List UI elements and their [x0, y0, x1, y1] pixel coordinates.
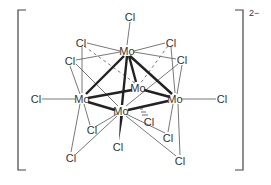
cl-bottom: Cl — [113, 141, 123, 153]
left-bracket — [18, 10, 26, 170]
mo-left: Mo — [74, 93, 89, 105]
cl-hashed: Cl — [144, 116, 154, 128]
cl-top: Cl — [125, 11, 135, 23]
hashed-bond — [140, 109, 148, 115]
cl-upper-right: Cl — [166, 37, 176, 49]
atom-labels: Mo Mo Mo Mo Mo Cl Cl Cl Cl Cl Cl Cl Cl C… — [31, 11, 227, 167]
cluster-diagram: Mo Mo Mo Mo Mo Cl Cl Cl Cl Cl Cl Cl Cl C… — [0, 0, 271, 185]
charge-label: 2− — [249, 8, 259, 18]
wedge-bond — [119, 116, 123, 141]
cl-right-2: Cl — [177, 54, 187, 66]
cl-bottom-left: Cl — [66, 152, 76, 164]
cl-bottom-right: Cl — [175, 155, 185, 167]
mo-top: Mo — [119, 45, 134, 57]
mo-back: Mo — [130, 82, 145, 94]
mo-mo-bonds — [86, 56, 172, 110]
cl-upper-left: Cl — [76, 37, 86, 49]
mo-right: Mo — [167, 93, 182, 105]
cl-right: Cl — [217, 93, 227, 105]
thin-bonds — [42, 22, 216, 156]
mo-front: Mo — [113, 105, 128, 117]
cl-lower-left: Cl — [87, 124, 97, 136]
cl-left: Cl — [31, 93, 41, 105]
cl-left-2: Cl — [65, 55, 75, 67]
right-bracket — [235, 10, 243, 170]
cl-lower-right: Cl — [163, 132, 173, 144]
